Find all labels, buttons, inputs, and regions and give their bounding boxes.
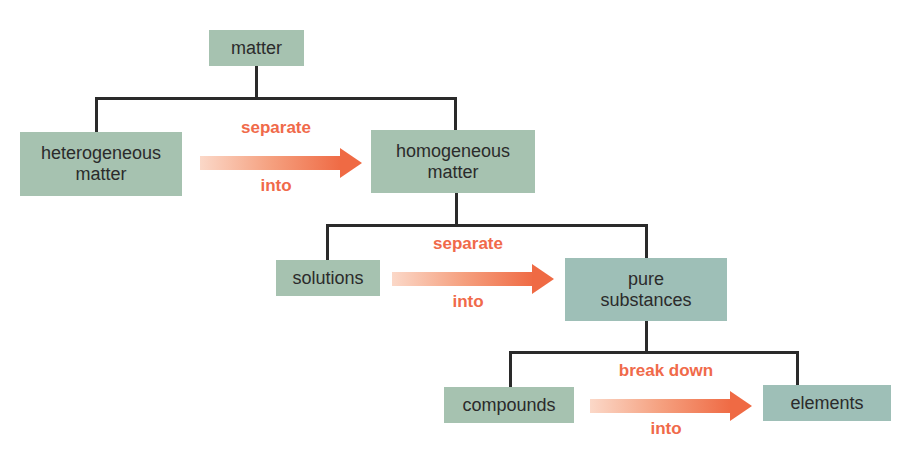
connector-solutions-up bbox=[326, 224, 329, 261]
connector-level3-horizontal bbox=[509, 351, 799, 354]
node-heterogeneous-label-line1: heterogeneous bbox=[41, 143, 161, 164]
arrow-2-bottom-label: into bbox=[392, 292, 544, 312]
node-homogeneous-label-line2: matter bbox=[427, 162, 478, 183]
arrow-2-top-label: separate bbox=[392, 234, 544, 254]
node-pure-label-line2: substances bbox=[600, 290, 691, 311]
node-elements: elements bbox=[763, 385, 891, 421]
connector-compounds-up bbox=[509, 351, 512, 388]
arrow-separate-2: separate into bbox=[392, 270, 554, 314]
arrow-3-shaft bbox=[590, 399, 732, 413]
connector-heterogeneous-up bbox=[95, 97, 98, 132]
arrow-3-top-label: break down bbox=[590, 361, 742, 381]
arrow-3-bottom-label: into bbox=[590, 419, 742, 439]
connector-matter-down bbox=[255, 65, 258, 99]
node-homogeneous-matter: homogeneous matter bbox=[371, 130, 535, 193]
connector-level1-horizontal bbox=[95, 97, 457, 100]
arrow-right-icon bbox=[730, 391, 752, 421]
arrow-1-shaft bbox=[200, 156, 342, 170]
connector-pure-down bbox=[645, 320, 648, 353]
node-matter-label: matter bbox=[231, 38, 282, 59]
node-matter: matter bbox=[209, 30, 304, 66]
connector-level2-horizontal bbox=[326, 224, 648, 227]
node-heterogeneous-matter: heterogeneous matter bbox=[20, 132, 182, 196]
arrow-2-shaft bbox=[392, 272, 534, 286]
arrow-right-icon bbox=[340, 148, 362, 178]
node-pure-label-line1: pure bbox=[628, 269, 664, 290]
node-compounds-label: compounds bbox=[462, 395, 555, 416]
connector-homogeneous-down bbox=[455, 192, 458, 226]
connector-homogeneous-up bbox=[454, 97, 457, 131]
node-solutions-label: solutions bbox=[292, 268, 363, 289]
node-compounds: compounds bbox=[444, 387, 574, 423]
node-pure-substances: pure substances bbox=[565, 258, 727, 321]
arrow-1-bottom-label: into bbox=[200, 176, 352, 196]
arrow-1-top-label: separate bbox=[200, 118, 352, 138]
node-solutions: solutions bbox=[276, 260, 380, 296]
arrow-separate-1: separate into bbox=[200, 154, 362, 198]
node-homogeneous-label-line1: homogeneous bbox=[396, 141, 510, 162]
arrow-break-down: break down into bbox=[590, 397, 752, 441]
connector-elements-up bbox=[796, 351, 799, 386]
connector-pure-up bbox=[645, 224, 648, 260]
node-heterogeneous-label-line2: matter bbox=[75, 164, 126, 185]
node-elements-label: elements bbox=[790, 393, 863, 414]
arrow-right-icon bbox=[532, 264, 554, 294]
